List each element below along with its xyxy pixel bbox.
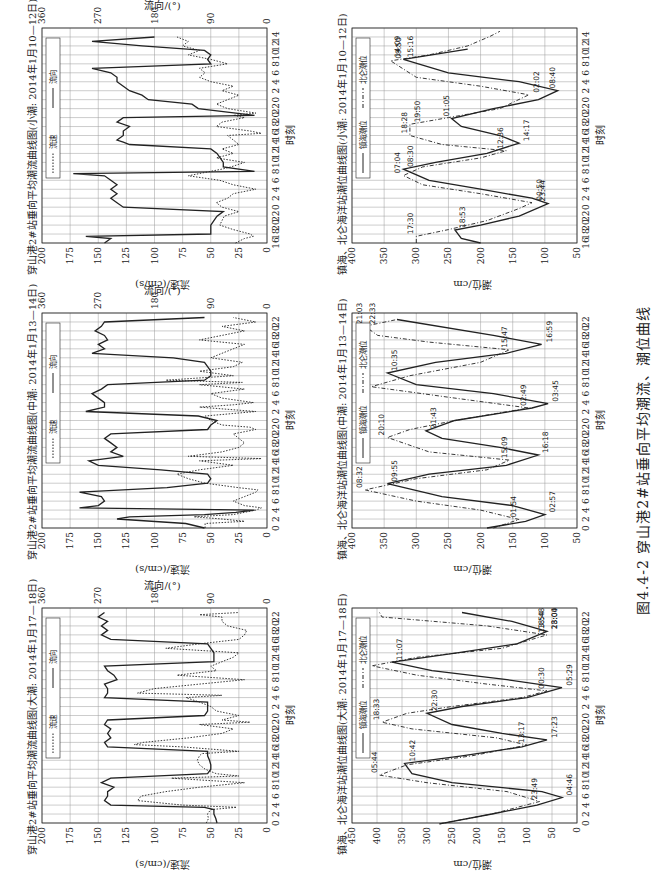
svg-text:05:29: 05:29 [565, 664, 574, 686]
current-chart-neap: 穿山港2#站垂向平均潮流曲线图(小潮: 2014年1月10—12日) 02550… [20, 5, 320, 275]
svg-text:0: 0 [581, 204, 591, 210]
y-tick-label: 175 [65, 532, 75, 549]
svg-text:8: 8 [271, 382, 281, 388]
svg-text:4: 4 [581, 507, 591, 513]
svg-text:22: 22 [581, 719, 591, 730]
svg-text:8: 8 [271, 168, 281, 174]
y-axis-label: 潮位/cm [453, 563, 491, 578]
svg-text:18:33: 18:33 [372, 698, 381, 720]
svg-text:14: 14 [271, 31, 281, 43]
y-tick-label: 25 [234, 532, 244, 544]
svg-text:镇海潮位: 镇海潮位 [358, 700, 368, 729]
svg-text:08:40: 08:40 [548, 67, 557, 89]
svg-text:4: 4 [271, 694, 281, 700]
svg-text:13:17: 13:17 [517, 721, 526, 743]
svg-text:22: 22 [581, 611, 591, 622]
svg-text:8: 8 [271, 784, 281, 790]
svg-text:8: 8 [581, 382, 591, 388]
y-tick-label: 150 [508, 532, 518, 549]
svg-text:02:49: 02:49 [519, 384, 528, 406]
y-tick-label: 300 [411, 532, 421, 549]
svg-text:0: 0 [581, 525, 591, 531]
svg-text:0: 0 [581, 417, 591, 423]
svg-text:0: 0 [271, 417, 281, 423]
y-axis-label: 流速/(cm/s) [135, 563, 190, 578]
svg-text:01:05: 01:05 [442, 95, 451, 117]
svg-text:15:47: 15:47 [500, 326, 509, 348]
svg-text:18:53: 18:53 [458, 206, 467, 228]
svg-text:23:00: 23:00 [550, 607, 559, 629]
y-tick-label: 200 [476, 247, 486, 264]
svg-text:0: 0 [581, 97, 591, 103]
chart-svg: 0501001502002503003504004500246810121416… [330, 585, 630, 855]
svg-text:4: 4 [581, 694, 591, 700]
svg-text:14:17: 14:17 [522, 119, 531, 141]
svg-text:2: 2 [271, 88, 281, 94]
x-axis-label: 时刻 [282, 705, 297, 725]
y-tick-label: 50 [572, 532, 582, 544]
y-tick-label: 350 [379, 532, 389, 549]
svg-text:0: 0 [262, 598, 272, 604]
y-tick-label: 75 [178, 532, 188, 544]
y-tick-label: 0 [572, 827, 582, 833]
svg-text:8: 8 [581, 489, 591, 495]
svg-text:22: 22 [271, 611, 281, 622]
svg-text:23:49: 23:49 [530, 778, 539, 800]
y-tick-label: 250 [443, 247, 453, 264]
svg-text:0: 0 [271, 820, 281, 826]
y-tick-label: 150 [497, 827, 507, 844]
svg-text:6: 6 [581, 498, 591, 504]
svg-text:流向: 流向 [48, 70, 58, 84]
svg-text:01:54: 01:54 [509, 496, 518, 518]
svg-text:8: 8 [271, 677, 281, 683]
svg-text:22: 22 [581, 424, 591, 435]
svg-text:22: 22 [271, 103, 281, 114]
svg-text:08:30: 08:30 [406, 145, 415, 167]
svg-text:流向: 流向 [48, 355, 58, 369]
svg-text:6: 6 [271, 685, 281, 691]
svg-text:90: 90 [206, 12, 216, 24]
y-tick-label: 50 [206, 247, 216, 259]
svg-text:2: 2 [581, 516, 591, 522]
y-tick-label: 200 [37, 532, 47, 549]
svg-text:6: 6 [271, 390, 281, 396]
svg-text:4: 4 [271, 186, 281, 192]
svg-text:21:43: 21:43 [429, 407, 438, 429]
svg-text:6: 6 [271, 177, 281, 183]
svg-text:4: 4 [271, 507, 281, 513]
svg-text:2: 2 [271, 704, 281, 710]
svg-text:0: 0 [581, 712, 591, 718]
y-tick-label: 100 [540, 247, 550, 264]
y-tick-label: 175 [65, 827, 75, 844]
x-axis-label: 时刻 [592, 705, 607, 725]
tide-chart-neap: 镇海、北仑海洋站潮位曲线图(小潮: 2014年1月10—12日) 5010015… [330, 5, 630, 275]
svg-text:11:07: 11:07 [395, 638, 404, 660]
y-tick-label: 300 [411, 247, 421, 264]
svg-text:20:10: 20:10 [377, 414, 386, 436]
svg-text:14: 14 [581, 31, 591, 43]
svg-text:15:16: 15:16 [406, 36, 415, 58]
y-axis-label: 潮位/cm [453, 858, 491, 873]
svg-text:6: 6 [271, 498, 281, 504]
svg-text:6: 6 [581, 70, 591, 76]
y-tick-label: 350 [397, 827, 407, 844]
current-chart-spring: 穿山港2#站垂向平均潮流曲线图(大潮: 2014年1月17—18日) 02550… [20, 585, 320, 855]
y-tick-label: 200 [472, 827, 482, 844]
chart-svg: 5010015020025030035040002468101214161820… [330, 290, 630, 560]
svg-text:17:30: 17:30 [406, 212, 415, 234]
chart-svg: 0255075100125150175200161820220246810121… [20, 5, 320, 275]
y-tick-label: 450 [347, 827, 357, 844]
svg-text:21:03: 21:03 [355, 302, 364, 324]
svg-text:2: 2 [271, 195, 281, 201]
x-axis-label: 时刻 [592, 125, 607, 145]
y-tick-label: 250 [447, 827, 457, 844]
svg-text:10:35: 10:35 [390, 349, 399, 371]
svg-text:流速: 流速 [48, 419, 58, 434]
svg-text:2: 2 [581, 88, 591, 94]
svg-text:360: 360 [37, 587, 47, 604]
svg-text:4: 4 [581, 186, 591, 192]
y2-axis-label: 流向/(°) [144, 0, 180, 12]
svg-text:4: 4 [581, 79, 591, 85]
svg-text:22: 22 [271, 719, 281, 730]
